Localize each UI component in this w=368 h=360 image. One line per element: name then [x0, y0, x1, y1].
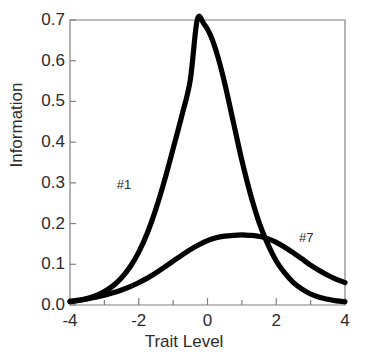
x-tick-label: 4 [315, 312, 368, 329]
y-tick-label: 0.7 [41, 11, 65, 28]
y-tick-label: 0.1 [41, 255, 65, 272]
y-tick-label: 0.5 [41, 92, 65, 109]
series-label-item1: #1 [117, 177, 131, 192]
y-tick-label: 0.6 [41, 52, 65, 69]
x-tick-label: -2 [109, 312, 169, 329]
x-axis-title: Trait Level [0, 332, 368, 352]
x-tick-label: 2 [246, 312, 306, 329]
y-tick-label: 0.3 [41, 174, 65, 191]
x-tick-label: 0 [178, 312, 238, 329]
y-axis-title: Information [7, 70, 27, 180]
information-curve-chart: 0.00.10.20.30.40.50.60.7 -4-2024 #1#7 Tr… [0, 0, 368, 360]
series-label-item7: #7 [299, 230, 313, 245]
x-tick-label: -4 [40, 312, 100, 329]
y-tick-label: 0.2 [41, 215, 65, 232]
y-tick-label: 0.4 [41, 133, 65, 150]
